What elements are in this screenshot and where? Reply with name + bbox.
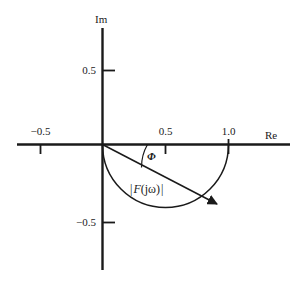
phase-angle-label: Φ bbox=[147, 150, 156, 162]
magnitude-omega: ω bbox=[148, 182, 156, 196]
magnitude-bar-right: | bbox=[161, 182, 163, 196]
real-axis-label: Re bbox=[265, 129, 277, 141]
imaginary-axis-label: Im bbox=[95, 13, 108, 25]
magnitude-bar-left: | bbox=[130, 182, 132, 196]
magnitude-open-paren: (j bbox=[141, 182, 148, 196]
real-tick-label-0-5: 0.5 bbox=[159, 125, 173, 137]
nyquist-plot-figure: Im Re −0.5 0.5 1.0 0.5 −0.5 Φ |F(jω)| bbox=[0, 0, 307, 282]
magnitude-close-paren: ) bbox=[156, 182, 160, 196]
real-tick-label-neg-0-5: −0.5 bbox=[31, 125, 51, 137]
imag-tick-label-0-5: 0.5 bbox=[82, 64, 96, 76]
magnitude-label: |F(jω)| bbox=[130, 182, 163, 196]
imag-tick-label-neg-0-5: −0.5 bbox=[76, 216, 96, 228]
real-tick-label-1-0: 1.0 bbox=[222, 125, 236, 137]
plot-canvas: Im Re −0.5 0.5 1.0 0.5 −0.5 Φ |F(jω)| bbox=[0, 0, 307, 282]
